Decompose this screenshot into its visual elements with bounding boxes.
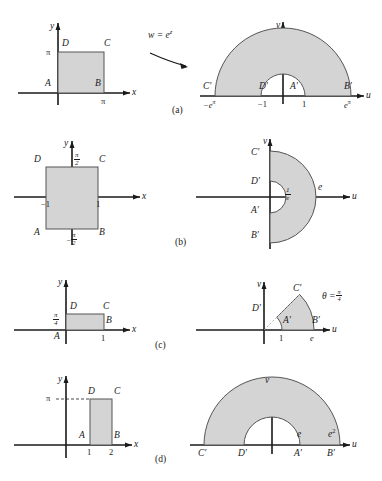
x-axis-arrow-b <box>133 195 140 200</box>
vertex-C-b: C <box>99 155 105 165</box>
vertex-D-b: D <box>34 155 41 165</box>
vertex-C-prime-c: C′ <box>293 284 301 294</box>
vertex-D-c: D <box>70 302 77 312</box>
tick-one-a: 1 <box>302 100 306 109</box>
tick-neg-e-pi-a: −eπ <box>203 100 215 109</box>
vertex-D-prime-c: D′ <box>252 304 261 314</box>
vertex-C-d: C <box>114 387 120 397</box>
axis-label-x-d: x <box>134 440 138 450</box>
region-rect-d <box>90 399 112 445</box>
vertex-C-prime-d: C′ <box>198 449 206 459</box>
vertex-D-prime-a: D′ <box>259 82 268 92</box>
vertex-B-b: B <box>99 228 105 238</box>
tick-one-x-d: 1 <box>87 448 91 457</box>
vertex-A-prime-d: A′ <box>294 449 302 459</box>
caption-c: (c) <box>155 340 166 350</box>
x-axis-arrow-c <box>123 328 130 333</box>
vertex-B-prime-b: B′ <box>251 231 259 241</box>
axis-label-v-b: v <box>263 137 267 147</box>
tick-pi-over-2-b: π2 <box>74 150 80 167</box>
caption-a: (a) <box>172 105 183 115</box>
vertex-A-prime-b: A′ <box>251 206 259 216</box>
tick-pi-y-a: π <box>46 48 50 57</box>
u-axis-arrow-b <box>343 195 350 200</box>
axis-label-y-c: y <box>58 278 62 288</box>
tick-e-d: e <box>297 430 301 440</box>
u-axis-arrow-a <box>357 94 364 99</box>
tick-neg-pi-over-2-b: −π2 <box>66 230 77 247</box>
axis-label-v-a: v <box>276 21 280 31</box>
y-axis-arrow-d <box>64 376 69 383</box>
vertex-A-prime-a: A′ <box>290 82 298 92</box>
tick-two-x-d: 2 <box>109 448 113 457</box>
y-axis-arrow-c <box>64 280 69 287</box>
v-axis-arrow-b <box>268 139 273 146</box>
vertex-A-d: A <box>79 431 85 441</box>
tick-pi-x-a: π <box>101 97 105 106</box>
caption-d: (d) <box>155 454 166 464</box>
axis-label-u-c: u <box>332 325 337 335</box>
tick-one-u-c: 1 <box>279 334 283 343</box>
tick-one-b: 1 <box>96 200 100 209</box>
vertex-C-prime-a: C′ <box>203 82 211 92</box>
panel-c: y x D C A B π4 1 v u C′ D′ A′ B′ θ =π4 1… <box>0 258 382 366</box>
y-axis-arrow-a <box>56 23 61 30</box>
v-axis-arrow-c <box>262 282 267 289</box>
region-square-b <box>46 167 98 229</box>
region-rect-c <box>66 314 104 330</box>
vertex-B-prime-a: B′ <box>344 82 352 92</box>
vertex-C-prime-b: C′ <box>251 148 259 158</box>
x-axis-arrow-d <box>125 443 132 448</box>
vertex-C-a: C <box>104 39 110 49</box>
axis-label-u-a: u <box>366 91 371 101</box>
vertex-B-a: B <box>95 79 101 89</box>
tick-e-b: e <box>318 183 322 193</box>
axis-label-y-d: y <box>58 375 62 385</box>
vertex-C-c: C <box>103 302 109 312</box>
tick-pi-y-d: π <box>46 394 50 403</box>
mapping-label-a: w = ez <box>148 29 172 41</box>
axis-label-v-c: v <box>257 280 261 290</box>
vertex-D-prime-d: D′ <box>238 449 247 459</box>
tick-neg-one-a: −1 <box>258 100 267 109</box>
theta-annotation-c: θ =π4 <box>322 286 342 302</box>
y-axis-arrow-b <box>70 141 75 148</box>
u-axis-arrow-c <box>323 328 330 333</box>
axis-label-x-b: x <box>142 192 146 202</box>
x-axis-arrow-a <box>123 91 130 96</box>
vertex-A-b: A <box>34 228 40 238</box>
tick-pi-over-4-c: π4 <box>53 310 59 327</box>
tick-one-x-c: 1 <box>101 334 105 343</box>
tick-e-squared-d: e2 <box>328 428 335 440</box>
tick-e-pi-a: eπ <box>344 100 351 109</box>
mapping-arrowhead-a <box>180 63 188 69</box>
panel-d: y x D C A B π 1 2 v u C′ D′ A′ B′ e e2 (… <box>0 366 382 481</box>
vertex-D-d: D <box>88 387 95 397</box>
axis-label-y-a: y <box>50 22 54 32</box>
vertex-B-c: B <box>106 316 112 326</box>
tick-e-u-c: e <box>310 334 314 343</box>
tick-neg-one-b: −1 <box>41 200 50 209</box>
vertex-A-prime-c: A′ <box>283 316 291 326</box>
axis-label-x-a: x <box>132 88 136 98</box>
vertex-A-a: A <box>45 79 51 89</box>
tick-one-over-e-b: 1e <box>285 185 291 202</box>
vertex-D-prime-b: D′ <box>251 177 260 187</box>
vertex-B-prime-d: B′ <box>327 449 335 459</box>
axis-label-u-b: u <box>352 192 357 202</box>
u-axis-arrow-d <box>343 443 350 448</box>
axis-label-u-d: u <box>352 440 357 450</box>
vertex-B-d: B <box>114 431 120 441</box>
panel-b-graphic <box>0 125 382 255</box>
panel-b: y x D C A B π2 −π2 −1 1 v u C′ D′ A′ B′ … <box>0 125 382 255</box>
vertex-A-c: A <box>54 332 60 342</box>
panel-a-graphic <box>0 0 382 125</box>
axis-label-y-b: y <box>64 139 68 149</box>
vertex-D-a: D <box>62 39 69 49</box>
caption-b: (b) <box>175 237 186 247</box>
axis-label-x-c: x <box>132 325 136 335</box>
panel-a: y x D C A B π π w = ez v u C′ D′ A′ B′ −… <box>0 0 382 125</box>
axis-label-v-d: v <box>265 376 269 386</box>
vertex-B-prime-c: B′ <box>312 316 320 326</box>
